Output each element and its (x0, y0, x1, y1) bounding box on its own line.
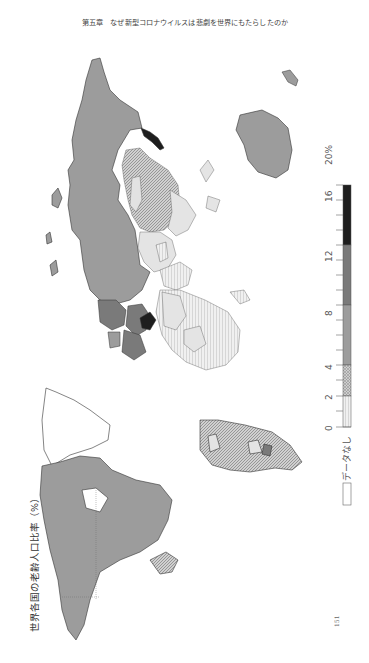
no-data-swatch (343, 483, 351, 505)
legend-tick-20: 20% (324, 145, 334, 165)
legend-tick-4: 4 (324, 364, 334, 370)
no-data-label: データなし (340, 436, 353, 481)
africa (156, 290, 250, 370)
world-map (0, 0, 369, 663)
page-number: 151 (333, 616, 340, 627)
legend-bar (336, 185, 351, 427)
new-zealand (282, 70, 298, 86)
east-asia (122, 148, 220, 236)
legend-tick-0: 0 (324, 425, 334, 431)
north-america (40, 456, 178, 640)
legend-tick-2: 2 (324, 394, 334, 400)
australia (236, 110, 292, 178)
greenland (42, 388, 110, 466)
southern-europe (98, 300, 156, 360)
legend-tick-16: 16 (324, 191, 334, 202)
legend-tick-8: 8 (324, 310, 334, 316)
legend-tick-12: 12 (324, 251, 334, 262)
south-america (200, 420, 302, 472)
